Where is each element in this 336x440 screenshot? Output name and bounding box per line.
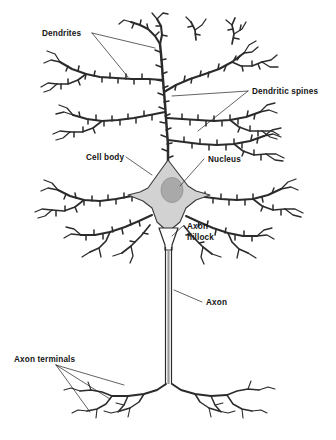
- neuron-illustration: Dendrites Dendritic spines Cell body Nuc…: [0, 0, 336, 440]
- nucleus-shape: [161, 178, 183, 203]
- label-nucleus: Nucleus: [208, 155, 241, 164]
- label-cell-body: Cell body: [86, 153, 124, 162]
- label-axon-hillock-line2: hillock: [187, 233, 214, 242]
- label-axon-hillock-line1: Axon: [187, 222, 208, 231]
- label-dendritic-spines: Dendritic spines: [252, 87, 318, 96]
- label-axon-terminals: Axon terminals: [14, 355, 76, 364]
- label-axon: Axon: [206, 298, 227, 307]
- neuron-diagram: Dendrites Dendritic spines Cell body Nuc…: [0, 0, 336, 440]
- label-dendrites: Dendrites: [42, 29, 81, 38]
